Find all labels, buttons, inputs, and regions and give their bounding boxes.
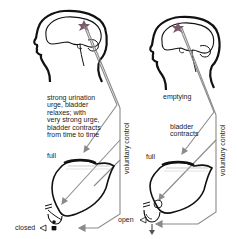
- left-urethra-stub: [52, 226, 56, 230]
- right-arrow-sphincter: [156, 221, 162, 227]
- right-head-outline: [150, 17, 219, 90]
- left-pelvic-mark-2: [45, 207, 52, 209]
- bladder-control-diagram: [0, 0, 237, 239]
- right-bladder-outline: [150, 163, 212, 214]
- right-micturition-center-icon: [172, 22, 184, 33]
- right-urine-flow-arrow-icon: [149, 230, 155, 235]
- right-full-label: full: [146, 153, 155, 160]
- right-cerebellum: [200, 45, 210, 57]
- left-closed-pointer: [40, 225, 46, 231]
- left-voluntary-control-label: voluntary control: [123, 123, 130, 174]
- left-bladder: [40, 160, 114, 231]
- right-open-pointer: [140, 217, 146, 223]
- right-pelvic-mark-2: [143, 205, 150, 207]
- left-micturition-center-icon: [78, 20, 90, 31]
- left-head: [34, 11, 107, 82]
- right-sphincter-label: open: [118, 216, 134, 223]
- left-brainstem: [80, 44, 84, 66]
- right-contract-label: bladder contracts: [170, 123, 198, 138]
- left-arrow-bladder-top: [84, 146, 89, 152]
- left-sphincter-valve: [52, 220, 56, 224]
- right-voluntary-control-label: voluntary control: [219, 125, 226, 176]
- right-pelvic-mark-1: [143, 202, 150, 204]
- right-brain-outline: [162, 23, 214, 53]
- left-arrow-sphincter: [79, 225, 85, 231]
- right-state-label: emptying: [163, 93, 191, 100]
- left-full-label: full: [47, 152, 56, 159]
- left-state-label: strong urination urge, bladder relaxes; …: [47, 94, 101, 138]
- right-head: [150, 17, 219, 90]
- right-sphincter-open-left: [146, 214, 152, 219]
- left-sphincter-label: closed: [15, 224, 35, 231]
- left-pelvic-mark-1: [45, 204, 52, 206]
